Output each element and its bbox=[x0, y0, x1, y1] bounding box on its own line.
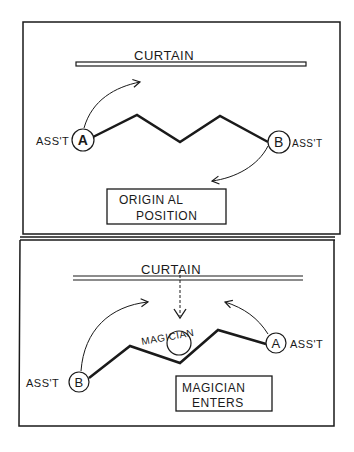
assistant-b-letter: B bbox=[74, 375, 83, 390]
assistant-a-label: ASS'T bbox=[290, 338, 323, 350]
assistant-a-label: ASS'T bbox=[36, 135, 69, 147]
assistant-b-label: ASS'T bbox=[26, 377, 59, 389]
magician-label: MAGICIAN bbox=[140, 327, 195, 347]
panel-original-position: CURTAIN A ASS'T B ASS'T ORIGIN AL POSITI… bbox=[23, 22, 340, 234]
assistant-chain bbox=[93, 115, 268, 142]
arrow-a-motion bbox=[225, 302, 268, 334]
assistant-a-letter: A bbox=[78, 132, 89, 148]
diagram-canvas: CURTAIN A ASS'T B ASS'T ORIGIN AL POSITI… bbox=[0, 0, 354, 452]
assistant-b-letter: B bbox=[274, 134, 284, 150]
curtain bbox=[76, 62, 306, 66]
caption-line2: POSITION bbox=[136, 209, 197, 223]
curtain-label: CURTAIN bbox=[141, 262, 201, 277]
arrow-b-motion bbox=[212, 146, 268, 181]
curtain-label: CURTAIN bbox=[134, 48, 194, 63]
caption-line1: MAGICIAN bbox=[182, 381, 245, 395]
caption-line2: ENTERS bbox=[192, 396, 244, 410]
assistant-a-letter: A bbox=[271, 336, 280, 351]
caption-line1: ORIGIN AL bbox=[119, 193, 184, 207]
assistant-b-label: ASS'T bbox=[292, 138, 323, 149]
panel-magician-enters: CURTAIN MAGICIAN B ASS'T A ASS'T MAGICIA… bbox=[19, 240, 334, 426]
arrow-a-motion bbox=[84, 82, 140, 128]
arrow-b-motion bbox=[81, 302, 148, 371]
